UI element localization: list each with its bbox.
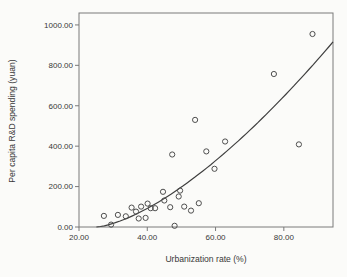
data-point [168,205,173,210]
data-point [160,189,165,194]
data-point [123,214,128,219]
y-tick-label: 200.00 [49,182,74,191]
data-point [172,223,177,228]
y-tick-label: 400.00 [49,142,74,151]
y-tick-label: 600.00 [49,102,74,111]
fit-curve [96,42,333,227]
x-axis-title: Urbanization rate (%) [165,254,246,264]
y-tick-label: 0.00 [57,223,73,232]
data-point [193,117,198,122]
data-point [136,216,141,221]
data-point [139,204,144,209]
data-point [178,188,183,193]
data-point [101,213,106,218]
data-point [223,139,228,144]
y-axis-title: Per capita R&D spending (yuan) [7,59,17,182]
data-point [133,209,138,214]
x-tick-label: 40.00 [137,233,158,242]
data-point [188,208,193,213]
data-point [143,215,148,220]
data-point [271,71,276,76]
plot-area: 0.00200.00400.00600.00800.001000.0020.00… [44,13,333,242]
y-tick-label: 1000.00 [44,21,73,30]
data-point [310,31,315,36]
data-point [176,194,181,199]
x-tick-label: 80.00 [274,233,295,242]
x-tick-label: 60.00 [206,233,227,242]
data-point [182,204,187,209]
data-point [296,142,301,147]
data-point [170,152,175,157]
scatter-chart: 0.00200.00400.00600.00800.001000.0020.00… [0,0,347,277]
data-point [196,201,201,206]
data-point [212,166,217,171]
x-tick-label: 20.00 [69,233,90,242]
data-point [204,149,209,154]
data-point [115,212,120,217]
figure-container: 0.00200.00400.00600.00800.001000.0020.00… [0,0,347,277]
data-point [129,205,134,210]
y-tick-label: 800.00 [49,61,74,70]
plot-frame [79,13,333,227]
